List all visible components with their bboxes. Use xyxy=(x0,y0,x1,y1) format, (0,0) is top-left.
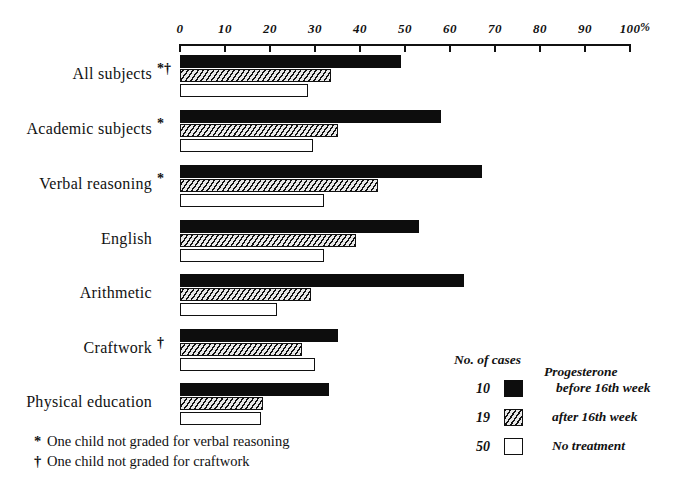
bar-hatched xyxy=(180,397,263,410)
bar-white xyxy=(180,358,315,371)
x-axis-tick xyxy=(269,44,271,52)
category-label: Arithmetic xyxy=(0,284,152,302)
bar-black xyxy=(180,329,338,342)
category-label: Physical education xyxy=(0,393,152,411)
category-label: English xyxy=(0,230,152,248)
category-label: All subjects xyxy=(0,65,152,83)
legend-swatch-white xyxy=(504,438,523,455)
x-axis-tick xyxy=(179,44,181,52)
legend-case-count: 50 xyxy=(464,439,490,455)
legend-swatch-hatch xyxy=(504,409,523,426)
x-axis-tick-label: 100 xyxy=(620,21,641,37)
bar-hatched xyxy=(180,69,331,82)
category-footnote-marker: * xyxy=(157,116,177,131)
bar-black xyxy=(180,55,401,68)
category-label-wrap: English xyxy=(0,220,152,268)
footnote-text: One child not graded for craftwork xyxy=(47,453,250,469)
category-label-wrap: Arithmetic xyxy=(0,274,152,322)
bar-group: English xyxy=(0,220,682,268)
category-footnote-marker: * xyxy=(157,171,177,186)
category-label-wrap: All subjects xyxy=(0,55,152,103)
x-axis-tick xyxy=(584,44,586,52)
bar-hatched xyxy=(180,179,378,192)
bar-white xyxy=(180,412,261,425)
bar-hatched xyxy=(180,124,338,137)
x-axis-tick xyxy=(449,44,451,52)
x-axis-tick-label: 60 xyxy=(443,21,457,37)
bar-group: Arithmetic xyxy=(0,274,682,322)
x-axis-tick-label: 0 xyxy=(177,21,184,37)
legend-case-count: 10 xyxy=(464,381,490,397)
x-axis-tick xyxy=(404,44,406,52)
x-axis-tick-label: 90 xyxy=(578,21,592,37)
footnote-row: †One child not graded for craftwork xyxy=(34,452,289,472)
x-axis-tick xyxy=(494,44,496,52)
bar-white xyxy=(180,84,308,97)
bar-black xyxy=(180,165,482,178)
bar-hatched xyxy=(180,234,356,247)
category-label-wrap: Physical education xyxy=(0,383,152,431)
legend-label: after 16th week xyxy=(552,409,638,425)
bar-white xyxy=(180,303,277,316)
legend-case-count: 19 xyxy=(464,410,490,426)
bar-hatched xyxy=(180,343,302,356)
x-axis-tick-label: 70 xyxy=(488,21,502,37)
category-label: Verbal reasoning xyxy=(0,175,152,193)
category-label-wrap: Verbal reasoning xyxy=(0,165,152,213)
bar-black xyxy=(180,274,464,287)
footnote-symbol: * xyxy=(34,432,47,452)
footnote-symbol: † xyxy=(34,452,47,472)
x-axis-tick xyxy=(629,44,631,52)
x-axis-tick xyxy=(539,44,541,52)
x-axis-tick-label: 80 xyxy=(533,21,547,37)
legend-swatch-black xyxy=(504,380,523,397)
bar-black xyxy=(180,110,441,123)
bar-group: All subjects*† xyxy=(0,55,682,103)
legend-row: 10before 16th week xyxy=(452,378,680,402)
category-label-wrap: Craftwork xyxy=(0,329,152,377)
category-label: Craftwork xyxy=(0,339,152,357)
legend-row: 50No treatment xyxy=(452,436,680,460)
bar-white xyxy=(180,139,313,152)
x-axis-tick-label: 10 xyxy=(218,21,232,37)
x-axis-tick-label: 30 xyxy=(308,21,322,37)
category-footnote-marker: *† xyxy=(157,61,177,76)
legend-label: before 16th week xyxy=(556,380,650,396)
bar-chart: 0102030405060708090100 % All subjects*†A… xyxy=(0,0,682,492)
category-label: Academic subjects xyxy=(0,120,152,138)
category-label-wrap: Academic subjects xyxy=(0,110,152,158)
footnote-text: One child not graded for verbal reasonin… xyxy=(47,433,289,449)
legend-count-header: No. of cases xyxy=(454,352,521,368)
x-axis-unit-label: % xyxy=(640,20,650,35)
x-axis-tick-label: 40 xyxy=(353,21,367,37)
bar-white xyxy=(180,194,324,207)
legend-row: 19after 16th week xyxy=(452,407,680,431)
legend-label: No treatment xyxy=(552,438,625,454)
x-axis-tick-label: 50 xyxy=(398,21,412,37)
bar-black xyxy=(180,383,329,396)
footnote-row: *One child not graded for verbal reasoni… xyxy=(34,432,289,452)
x-axis-tick xyxy=(359,44,361,52)
footnotes: *One child not graded for verbal reasoni… xyxy=(34,432,289,471)
x-axis-tick xyxy=(314,44,316,52)
x-axis-tick xyxy=(224,44,226,52)
bar-white xyxy=(180,249,324,262)
bar-hatched xyxy=(180,288,311,301)
bar-black xyxy=(180,220,419,233)
category-footnote-marker: † xyxy=(157,335,177,350)
bar-group: Academic subjects* xyxy=(0,110,682,158)
bar-group: Verbal reasoning* xyxy=(0,165,682,213)
x-axis-tick-label: 20 xyxy=(263,21,277,37)
